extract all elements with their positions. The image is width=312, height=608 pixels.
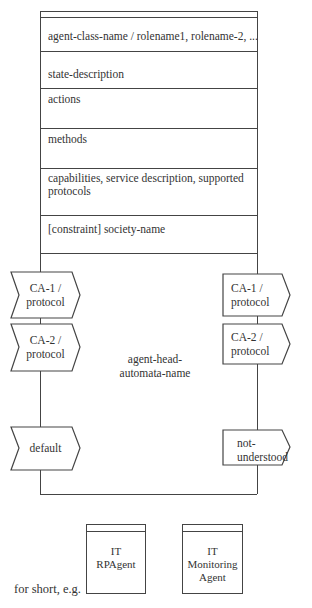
outgoing-ca-1-label: CA-1 / protocol bbox=[231, 281, 269, 309]
short-agent-box-it-monitoring-agent: IT Monitoring Agent bbox=[182, 524, 243, 594]
short-agent-box-it-rpagent: IT RPAgent bbox=[86, 524, 146, 594]
incoming-default-label: default bbox=[19, 441, 72, 455]
incoming-ca-2-label: CA-2 / protocol bbox=[19, 333, 72, 361]
short-box-header-line bbox=[87, 531, 146, 532]
short-box-label: IT RPAgent bbox=[87, 545, 145, 571]
outgoing-ca-2-label: CA-2 / protocol bbox=[231, 330, 269, 358]
short-form-caption: for short, e.g. bbox=[14, 582, 81, 597]
short-box-label: IT Monitoring Agent bbox=[183, 545, 242, 584]
short-box-header-line bbox=[183, 531, 243, 532]
outgoing-not-understood-label: not- understood bbox=[237, 436, 288, 464]
incoming-ca-1-label: CA-1 / protocol bbox=[19, 281, 72, 309]
